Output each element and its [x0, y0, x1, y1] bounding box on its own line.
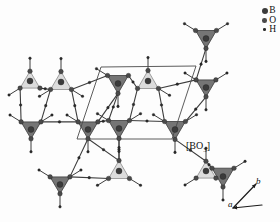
- atoms-group: [8, 22, 247, 208]
- hydrogen-atom: [205, 109, 208, 112]
- hydrogen-atom: [118, 150, 121, 153]
- hydrogen-atom: [244, 160, 247, 163]
- hydrogen-atom: [78, 157, 81, 160]
- oxygen-atom: [193, 28, 198, 33]
- oxygen-atom: [106, 118, 111, 123]
- oxygen-atom: [204, 159, 209, 164]
- hydrogen-atom: [222, 199, 225, 202]
- hydrogen-atom: [88, 176, 91, 179]
- hydrogen-atom: [147, 56, 150, 59]
- boron-atom: [203, 85, 209, 91]
- boron-atom: [57, 182, 63, 188]
- axis-label-a: a: [228, 199, 233, 209]
- hydrogen-atom: [96, 184, 99, 187]
- hydrogen-atom: [30, 151, 33, 154]
- hydrogen-atom: [51, 114, 54, 117]
- hydrogen-atom: [168, 94, 171, 97]
- oxygen-atom: [127, 118, 132, 123]
- oxygen-atom: [68, 175, 73, 180]
- boron-atom: [172, 127, 178, 133]
- hydrogen-atom: [58, 121, 61, 124]
- hydrogen-atom: [87, 151, 90, 154]
- boron-atom: [28, 127, 34, 133]
- oxygen-atom: [117, 136, 122, 141]
- oxygen-atom: [29, 137, 34, 142]
- boron-atom: [220, 174, 226, 180]
- hydrogen-atom: [102, 148, 105, 151]
- hydrogen-atom: [184, 184, 187, 187]
- hydrogen-atom: [205, 60, 208, 63]
- hydrogen-atom: [80, 169, 83, 172]
- oxygen-atom: [38, 86, 43, 91]
- bond-network: [9, 24, 245, 207]
- oxygen-atom: [127, 176, 132, 181]
- o-atom-icon: [260, 18, 269, 23]
- oxygen-atom: [116, 91, 121, 96]
- oxygen-atom: [194, 176, 199, 181]
- boron-atom: [116, 168, 122, 174]
- oxygen-atom: [105, 73, 110, 78]
- oxygen-atom: [135, 86, 140, 91]
- hydrogen-atom: [117, 105, 120, 108]
- oxygen-atom: [106, 176, 111, 181]
- hydrogen-atom: [194, 108, 197, 111]
- oxygen-atom: [194, 78, 199, 83]
- oxygen-atom: [58, 192, 63, 197]
- legend-item-h: H: [260, 25, 276, 35]
- hydrogen-atom: [118, 146, 121, 149]
- hydrogen-atom: [38, 169, 41, 172]
- b-atom-icon: [260, 8, 269, 14]
- oxygen-atom: [48, 87, 53, 92]
- hydrogen-atom: [19, 104, 22, 107]
- oxygen-atom: [214, 78, 219, 83]
- figure-canvas: [BO3] B O H a b: [0, 0, 280, 222]
- oxygen-atom: [96, 120, 101, 125]
- hydrogen-atom: [183, 22, 186, 25]
- hydrogen-atom: [96, 112, 99, 115]
- oxygen-atom: [69, 87, 74, 92]
- axis-a-arrow: [233, 205, 262, 208]
- oxygen-atom: [59, 69, 64, 74]
- hydrogen-atom: [208, 163, 211, 166]
- oxygen-atom: [162, 119, 167, 124]
- hydrogen-atom: [81, 95, 84, 98]
- oxygen-atom: [146, 68, 151, 73]
- hydrogen-atom: [132, 103, 135, 106]
- bo3-polyhedron-label: [BO3]: [186, 140, 210, 154]
- boron-atom: [115, 81, 121, 87]
- oxygen-atom: [86, 137, 91, 142]
- boron-atom: [27, 78, 33, 84]
- hydrogen-atom: [66, 114, 69, 117]
- axis-label-b: b: [256, 176, 261, 186]
- hydrogen-atom: [139, 184, 142, 187]
- oxygen-atom: [232, 166, 237, 171]
- hydrogen-atom: [176, 83, 179, 86]
- axis-b-arrow: [233, 184, 256, 208]
- oxygen-atom: [204, 95, 209, 100]
- hydrogen-atom: [226, 72, 229, 75]
- hydrogen-atom: [102, 120, 105, 123]
- boron-atom: [116, 126, 122, 132]
- boron-atom: [203, 36, 209, 42]
- oxygen-atom: [156, 86, 161, 91]
- hydrogen-atom: [160, 104, 163, 107]
- bo3-triangles-group: [20, 31, 234, 194]
- hydrogen-atom: [146, 120, 149, 123]
- hydrogen-atom: [195, 113, 198, 116]
- hydrogen-atom: [44, 104, 47, 107]
- boron-atom: [85, 127, 91, 133]
- axis-indicator: [233, 184, 262, 210]
- hydrogen-atom: [152, 113, 155, 116]
- hydrogen-atom: [29, 57, 32, 60]
- hydrogen-atom: [112, 106, 115, 109]
- hydrogen-atom: [44, 87, 47, 90]
- boron-atom: [145, 78, 151, 84]
- oxygen-atom: [214, 28, 219, 33]
- oxygen-atom: [48, 175, 53, 180]
- oxygen-atom: [117, 158, 122, 163]
- h-atom-icon: [260, 28, 269, 31]
- oxygen-atom: [18, 86, 23, 91]
- hydrogen-atom: [59, 206, 62, 209]
- hydrogen-atom: [73, 104, 76, 107]
- legend: B O H: [260, 6, 276, 35]
